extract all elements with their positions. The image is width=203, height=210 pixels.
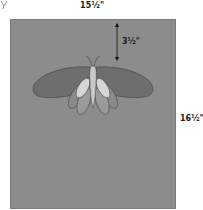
- drop-measurement-arrow: [115, 23, 119, 61]
- antennae: [86, 56, 100, 66]
- butterfly-body: [90, 66, 97, 108]
- butterfly-diagram: [0, 0, 203, 210]
- height-dimension-label: 16½": [180, 114, 203, 123]
- drop-dimension-label: 3½": [122, 37, 140, 46]
